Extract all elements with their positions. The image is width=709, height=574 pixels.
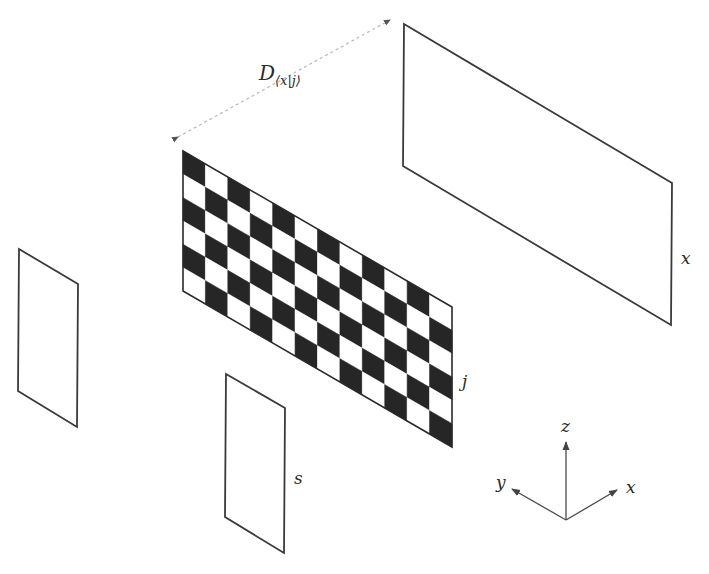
- z-axis-label: z: [560, 416, 571, 436]
- plane-j-label: j: [458, 371, 468, 391]
- distance-label-subscript: ⟨x|j⟩: [275, 73, 301, 88]
- plane-left: [18, 249, 78, 427]
- plane-j-checkerboard: [183, 151, 452, 447]
- x-axis-label: x: [626, 477, 636, 497]
- plane-s: s: [225, 374, 303, 553]
- distance-label-main: D: [258, 61, 275, 85]
- y-axis-arrow: [512, 489, 566, 520]
- x-axis-arrow: [566, 490, 617, 520]
- distance-label: D⟨x|j⟩: [258, 61, 301, 88]
- y-axis-label: y: [495, 472, 506, 492]
- diagram-canvas: D⟨x|j⟩ x j s z y x: [0, 0, 709, 574]
- axis-triad: z y x: [495, 416, 636, 520]
- plane-x-label: x: [681, 248, 691, 268]
- svg-text:D⟨x|j⟩: D⟨x|j⟩: [258, 61, 301, 88]
- plane-s-label: s: [294, 468, 303, 488]
- plane-x: x: [403, 24, 691, 325]
